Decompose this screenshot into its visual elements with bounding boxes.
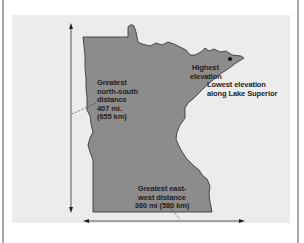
lowest-elevation-label: Lowest elevation along Lake Superior xyxy=(207,81,277,98)
north-south-arrow-icon xyxy=(69,23,73,213)
east-west-distance-label: Greatest east- west distance 360 mi (580… xyxy=(121,185,203,211)
highest-elevation-dot-icon xyxy=(228,57,232,61)
east-west-arrow-icon xyxy=(83,219,245,223)
label-line: (655 km) xyxy=(97,113,138,122)
highest-elevation-label: Highest elevation xyxy=(190,64,222,81)
label-line: 360 mi (580 km) xyxy=(121,202,203,211)
north-south-distance-label: Greatest north-south distance 407 mi. (6… xyxy=(97,79,138,122)
label-line: along Lake Superior xyxy=(207,90,277,99)
